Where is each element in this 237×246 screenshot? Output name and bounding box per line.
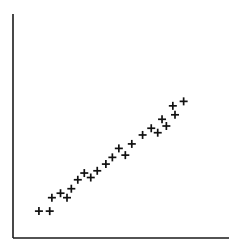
plus-marker-icon [67,185,75,193]
plus-marker-icon [171,111,179,119]
plus-marker-icon [169,102,177,110]
plus-marker-icon [147,124,155,132]
plus-marker-icon [115,144,123,152]
plus-marker-icon [121,151,129,159]
plus-marker-icon [180,97,188,105]
data-points [35,97,188,215]
plus-marker-icon [158,115,166,123]
plus-marker-icon [46,207,54,215]
plus-marker-icon [80,169,88,177]
plus-marker-icon [108,153,116,161]
plus-marker-icon [102,160,110,168]
plus-marker-icon [162,122,170,130]
plus-marker-icon [48,194,56,202]
plus-marker-icon [128,140,136,148]
plus-marker-icon [35,207,43,215]
plus-marker-icon [87,174,95,182]
plus-marker-icon [139,131,147,139]
scatter-chart [0,0,237,246]
plus-marker-icon [63,194,71,202]
plus-marker-icon [154,129,162,137]
plus-marker-icon [74,176,82,184]
plus-marker-icon [93,167,101,175]
plus-marker-icon [57,189,65,197]
